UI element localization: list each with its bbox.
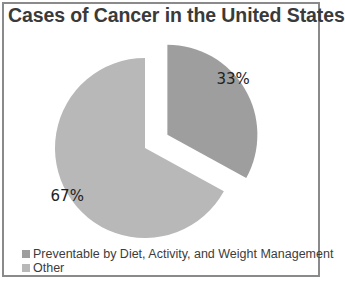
legend-swatch-preventable (22, 250, 30, 258)
legend-item-other: Other (22, 261, 333, 275)
pie-slice-preventable (167, 45, 257, 178)
legend-item-preventable: Preventable by Diet, Activity, and Weigh… (22, 247, 333, 261)
legend-swatch-other (22, 264, 30, 272)
legend: Preventable by Diet, Activity, and Weigh… (22, 247, 333, 275)
legend-label-preventable: Preventable by Diet, Activity, and Weigh… (33, 247, 333, 261)
legend-label-other: Other (33, 261, 64, 275)
slice-label-preventable: 33% (216, 70, 249, 88)
slice-label-other: 67% (51, 187, 84, 205)
